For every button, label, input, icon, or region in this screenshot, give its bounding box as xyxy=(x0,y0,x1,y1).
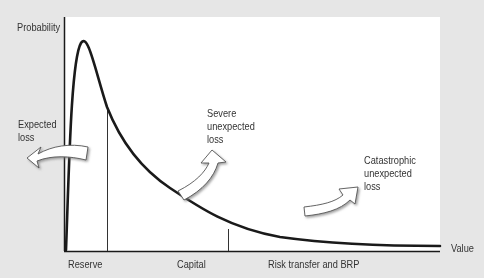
region-label-capital: Capital xyxy=(177,258,206,271)
expected-loss-arrow-icon xyxy=(27,145,88,168)
annotation-severe-loss: Severe unexpected loss xyxy=(207,107,255,146)
catastrophic-loss-arrow-icon xyxy=(304,187,358,216)
severe-loss-arrow-icon xyxy=(178,150,226,200)
x-axis-label: Value xyxy=(451,242,474,255)
annotation-catastrophic-loss: Catastrophic unexpected loss xyxy=(364,154,416,193)
region-label-reserve: Reserve xyxy=(68,258,102,271)
y-axis-label: Probability xyxy=(17,21,60,34)
annotation-expected-loss: Expected loss xyxy=(18,118,57,144)
loss-distribution-diagram: Probability Value Reserve Capital Risk t… xyxy=(0,0,484,278)
region-label-risk-transfer: Risk transfer and BRP xyxy=(268,258,359,271)
